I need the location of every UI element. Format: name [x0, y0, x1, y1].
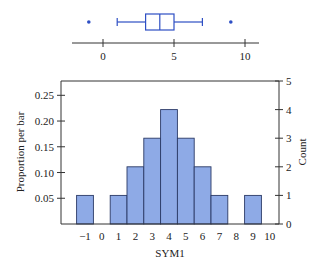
y-tick-label: 0.20 — [35, 115, 55, 127]
outlier-point — [87, 20, 91, 24]
y-tick-label: 0.25 — [35, 89, 55, 101]
x-tick-label: 1 — [116, 230, 122, 242]
histogram-bar — [245, 195, 262, 224]
x-tick-label: −1 — [79, 230, 91, 242]
x-axis-label: SYM1 — [155, 247, 184, 259]
y-tick-label: 0.15 — [35, 141, 55, 153]
y-axis-label: Proportion per bar — [14, 111, 26, 192]
y2-tick-label: 1 — [286, 189, 292, 201]
x-tick-label: 3 — [149, 230, 155, 242]
x-tick-label: 7 — [217, 230, 223, 242]
x-tick-label: 10 — [264, 230, 276, 242]
y2-tick-label: 4 — [286, 104, 292, 116]
histogram-bar — [177, 138, 194, 224]
histogram-bar — [211, 195, 228, 224]
x-tick-label: 0 — [99, 230, 105, 242]
boxplot-x-tick-label: 5 — [171, 50, 177, 62]
x-tick-label: 6 — [200, 230, 206, 242]
histogram-bar — [194, 167, 211, 224]
y2-tick-label: 0 — [286, 218, 292, 230]
boxplot-panel: 0510 — [72, 14, 259, 62]
x-tick-label: 2 — [133, 230, 139, 242]
histogram-bar — [127, 167, 144, 224]
y2-axis-label: Count — [296, 139, 308, 166]
x-tick-label: 4 — [166, 230, 172, 242]
histogram-bar — [77, 195, 94, 224]
y2-tick-label: 3 — [286, 132, 292, 144]
y-tick-label: 0.05 — [35, 192, 55, 204]
y2-tick-label: 2 — [286, 161, 292, 173]
y2-tick-label: 5 — [286, 75, 292, 87]
outlier-point — [229, 20, 233, 24]
histogram-bar — [110, 195, 127, 224]
chart: 0510 0.050.100.150.200.25012345−10123456… — [0, 0, 319, 269]
y-tick-label: 0.10 — [35, 167, 55, 179]
boxplot-x-tick-label: 10 — [240, 50, 252, 62]
histogram-bar — [161, 110, 178, 224]
boxplot-x-tick-label: 0 — [100, 50, 106, 62]
x-tick-label: 8 — [233, 230, 239, 242]
x-tick-label: 5 — [183, 230, 189, 242]
histogram-bar — [144, 138, 161, 224]
x-tick-label: 9 — [250, 230, 256, 242]
histogram-panel: 0.050.100.150.200.25012345−1012345678910 — [35, 75, 292, 242]
